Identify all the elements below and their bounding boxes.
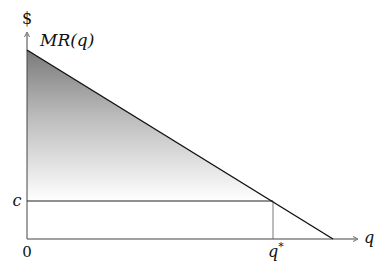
q-star-label: q* [268, 240, 284, 261]
y-axis-label: $ [22, 9, 32, 28]
q-star-label-base: q [268, 242, 278, 261]
origin-label: 0 [22, 243, 32, 261]
x-axis-label: q [364, 228, 374, 247]
mr-curve-label: MR(q) [39, 30, 94, 50]
q-star-label-sup: * [278, 240, 284, 253]
mr-curve-label-text: MR(q) [39, 30, 94, 50]
c-label: c [13, 191, 22, 210]
diagram-canvas: $ MR(q) c 0 q* q [0, 0, 390, 269]
mr-diagram: $ MR(q) c 0 q* q [0, 0, 390, 269]
